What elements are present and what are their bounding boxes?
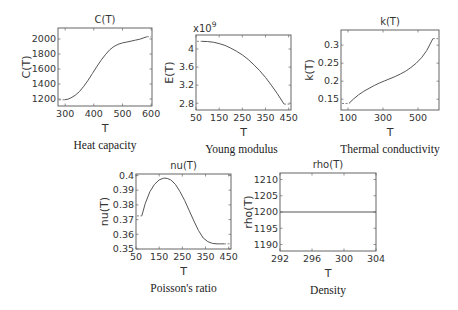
- y-tick-label: 1205: [254, 190, 278, 201]
- x-tick-label: 350: [196, 251, 214, 262]
- y-tick-label: 2000: [32, 33, 56, 44]
- plot-caption: Young modulus: [205, 143, 278, 156]
- x-tick-label: 400: [85, 108, 103, 119]
- plot-caption: Heat capacity: [74, 139, 137, 152]
- x-tick-label: 500: [113, 108, 131, 119]
- plot-caption: Density: [310, 284, 346, 297]
- y-tick-label: 3.6: [179, 61, 194, 72]
- y-tick-label: 0.3: [324, 39, 339, 50]
- subplot-thermal-conductivity: 1003005000.150.20.250.3k(T)Tk(T)Thermal …: [303, 16, 440, 156]
- y-tick-label: 1200: [254, 206, 278, 217]
- y-exponent-label: x109: [193, 20, 217, 34]
- x-axis-label: T: [101, 122, 109, 135]
- x-tick-label: 300: [56, 108, 74, 119]
- y-axis-label: C(T): [20, 56, 33, 79]
- y-tick-label: 1210: [254, 174, 278, 185]
- y-tick-label: 0.39: [113, 184, 134, 195]
- x-tick-label: 600: [142, 108, 160, 119]
- y-tick-label: 1800: [32, 48, 56, 59]
- x-tick-label: 250: [173, 251, 191, 262]
- data-curve: [202, 41, 284, 104]
- subplot-young-modulus: 501502503504502.83.23.64x109TE(T)Young m…: [163, 20, 298, 156]
- y-tick-label: 0.4: [119, 170, 134, 181]
- y-tick-label: 0.25: [318, 57, 339, 68]
- x-tick-label: 296: [303, 253, 321, 264]
- y-axis-label: nu(T): [98, 197, 111, 226]
- figure-canvas: 30040050060012001400160018002000C(T)TC(T…: [0, 0, 458, 310]
- x-axis-label: T: [324, 267, 332, 280]
- x-tick-label: 100: [339, 112, 357, 123]
- plot-title: C(T): [95, 14, 116, 25]
- x-tick-label: 350: [256, 112, 274, 123]
- subplot-density: 29229630030411901195120012051210rho(T)Tr…: [242, 159, 385, 297]
- subplot-heat-capacity: 30040050060012001400160018002000C(T)TC(T…: [20, 14, 161, 152]
- x-tick-label: 304: [367, 253, 385, 264]
- plot-title: nu(T): [170, 160, 197, 171]
- x-tick-label: 150: [150, 251, 168, 262]
- x-axis-label: T: [239, 126, 247, 139]
- y-axis-label: k(T): [303, 59, 316, 81]
- y-tick-label: 0.2: [324, 75, 339, 86]
- x-tick-label: 500: [409, 112, 427, 123]
- x-tick-label: 150: [210, 112, 228, 123]
- y-tick-label: 0.35: [113, 243, 134, 254]
- x-tick-label: 250: [233, 112, 251, 123]
- x-axis-label: T: [386, 126, 394, 139]
- plot-caption: Poisson's ratio: [150, 282, 217, 294]
- data-curve: [349, 39, 433, 104]
- subplot-poisson-ratio: 501502503504500.350.360.370.380.390.4nu(…: [98, 160, 238, 294]
- plot-title: rho(T): [313, 159, 343, 170]
- data-curve: [142, 178, 224, 244]
- y-tick-label: 1195: [254, 223, 278, 234]
- plot-frame: [136, 174, 231, 249]
- data-curve: [65, 37, 147, 100]
- plot-frame: [196, 35, 291, 110]
- y-tick-label: 1600: [32, 63, 56, 74]
- x-tick-label: 50: [190, 112, 202, 123]
- plot-title: k(T): [380, 16, 400, 27]
- x-tick-label: 300: [374, 112, 392, 123]
- x-tick-label: 450: [280, 112, 298, 123]
- y-tick-label: 0.37: [113, 214, 134, 225]
- x-tick-label: 450: [220, 251, 238, 262]
- y-axis-label: rho(T): [242, 195, 255, 228]
- y-tick-label: 4: [188, 43, 194, 54]
- x-tick-label: 300: [335, 253, 353, 264]
- y-tick-label: 0.38: [113, 199, 134, 210]
- y-axis-label: E(T): [163, 61, 176, 83]
- y-tick-label: 3.2: [179, 79, 194, 90]
- y-tick-label: 1190: [254, 239, 278, 250]
- y-tick-label: 2.8: [179, 98, 194, 109]
- x-tick-label: 292: [271, 253, 289, 264]
- y-tick-label: 1200: [32, 93, 56, 104]
- plot-caption: Thermal conductivity: [340, 143, 440, 156]
- x-axis-label: T: [179, 265, 187, 278]
- y-tick-label: 0.15: [318, 93, 339, 104]
- plot-frame: [341, 30, 439, 110]
- y-tick-label: 1400: [32, 78, 56, 89]
- y-tick-label: 0.36: [113, 229, 134, 240]
